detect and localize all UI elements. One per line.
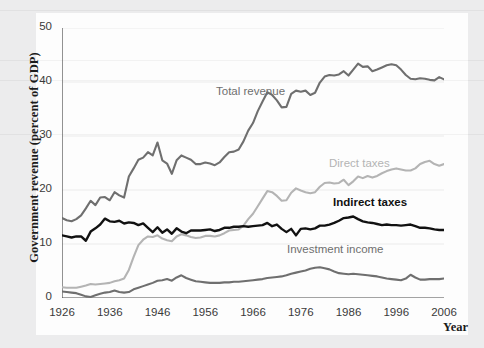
x-tick-label: 1956 xyxy=(185,306,225,318)
y-axis-title: Government revenue (percent of GDP) xyxy=(27,8,42,308)
y-tick-label: 40 xyxy=(26,74,52,86)
chart-figure: Government revenue (percent of GDP) Year… xyxy=(0,0,484,348)
y-tick-label: 10 xyxy=(26,236,52,248)
x-tick-label: 1996 xyxy=(376,306,416,318)
x-tick-label: 1976 xyxy=(281,306,321,318)
x-tick-label: 1966 xyxy=(233,306,273,318)
x-tick-label: 1946 xyxy=(138,306,178,318)
x-tick-label: 1926 xyxy=(42,306,82,318)
x-tick-label: 2006 xyxy=(424,306,464,318)
x-axis-title: Year xyxy=(443,320,468,335)
x-tick-label: 1986 xyxy=(329,306,369,318)
y-tick-label: 0 xyxy=(26,290,52,302)
y-tick-label: 50 xyxy=(26,20,52,32)
series-label-direct-taxes: Direct taxes xyxy=(329,157,390,169)
y-tick-label: 30 xyxy=(26,128,52,140)
series-label-investment-income: Investment income xyxy=(287,243,384,255)
series-label-indirect-taxes: Indirect taxes xyxy=(333,196,407,208)
series-label-total-revenue: Total revenue xyxy=(216,85,285,97)
y-tick-label: 20 xyxy=(26,182,52,194)
x-tick-label: 1936 xyxy=(90,306,130,318)
background-band xyxy=(0,10,484,11)
